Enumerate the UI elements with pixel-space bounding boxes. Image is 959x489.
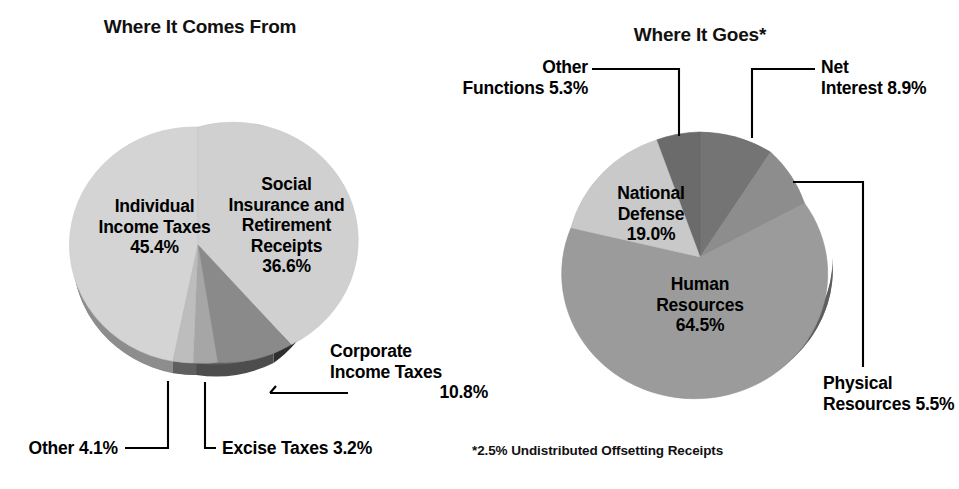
leader-net-interest [752,69,815,138]
label-human-resources-line2: Resources [656,295,744,315]
leader-other-functions [592,69,679,136]
label-physical-resources-line1: Physical [823,373,892,393]
label-physical-resources: Physical Resources 5.5% [823,373,943,414]
label-human-resources-pct: 64.5% [615,315,785,336]
footnote-undistributed-offsetting-receipts: *2.5% Undistributed Offsetting Receipts [472,443,723,458]
label-net-interest: Net Interest 8.9% [821,57,941,98]
label-other-functions-pct: 5.3% [549,78,588,98]
label-human-resources: Human Resources 64.5% [615,274,785,336]
label-other-functions-line1: Other [542,57,588,77]
label-national-defense-line2: Defense [618,204,685,224]
label-net-interest-line2: Interest [821,78,883,98]
label-human-resources-line1: Human [671,274,729,294]
label-physical-resources-line2: Resources [823,394,911,414]
label-other-functions: Other Functions 5.3% [440,57,588,98]
label-national-defense-pct: 19.0% [577,224,725,245]
label-physical-resources-pct: 5.5% [915,394,959,414]
label-net-interest-line1: Net [821,57,849,77]
right-pie-slices [562,132,828,399]
label-national-defense: National Defense 19.0% [577,183,725,245]
label-other-functions-line2: Functions [462,78,544,98]
label-net-interest-pct: 8.9% [887,78,926,98]
label-national-defense-line1: National [617,183,684,203]
